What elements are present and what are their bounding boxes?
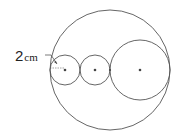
center-dot bbox=[139, 69, 142, 72]
center-dot bbox=[64, 69, 67, 72]
radius-value: 2 bbox=[15, 47, 23, 64]
center-dot bbox=[109, 69, 111, 71]
radius-label: 2cm bbox=[15, 47, 38, 65]
center-dot bbox=[94, 69, 97, 72]
radius-unit: cm bbox=[24, 51, 37, 63]
arrow-head bbox=[54, 61, 57, 64]
circles-diagram bbox=[0, 0, 181, 137]
